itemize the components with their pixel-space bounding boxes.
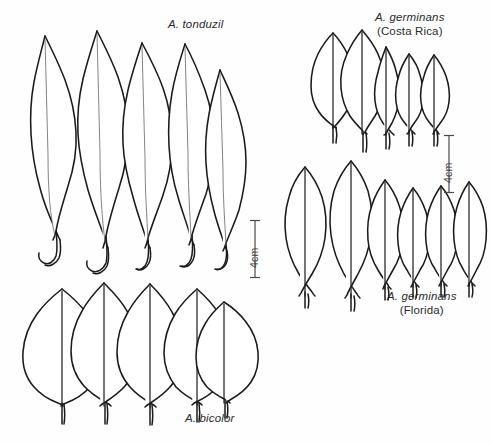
species-name-tonduzil: A. tonduzil: [168, 18, 223, 30]
species-label-tonduzil: A. tonduzil: [168, 18, 223, 32]
figure-plate: A. tonduzil A. germinans (Costa Rica) A.…: [0, 0, 493, 445]
species-name-germinans-florida: A. germinans: [387, 290, 457, 302]
scale-bars: [0, 0, 493, 445]
scale-bar-right-caption: 4cm: [442, 163, 454, 183]
species-name-germinans-costa-rica: A. germinans: [375, 11, 445, 23]
species-label-bicolor: A. bicolor: [185, 412, 234, 426]
locality-name-florida: (Florida): [400, 304, 444, 316]
locality-name-costa-rica: (Costa Rica): [377, 25, 443, 37]
species-label-germinans-florida: A. germinans (Florida): [387, 290, 457, 317]
species-name-bicolor: A. bicolor: [185, 412, 234, 424]
species-label-germinans-costa-rica: A. germinans (Costa Rica): [375, 11, 445, 38]
scale-bar-left-caption: 4cm: [248, 248, 260, 268]
